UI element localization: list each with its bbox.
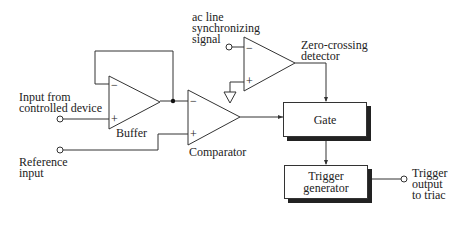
reference-terminal	[57, 147, 63, 153]
input-terminal	[57, 116, 63, 122]
ac-line-terminal	[226, 44, 232, 50]
buffer-minus-sign: −	[111, 80, 118, 91]
zero-crossing-minus-sign: −	[246, 43, 253, 54]
gate-block: Gate	[283, 102, 367, 137]
comparator-plus-sign: +	[190, 129, 197, 140]
trigger-generator-label-line2: generator	[303, 182, 348, 194]
comparator-label: Comparator	[189, 147, 246, 158]
trigger-generator-block: Trigger generator	[284, 165, 368, 199]
ground-symbol	[224, 92, 236, 103]
zero-crossing-plus-sign: +	[246, 76, 253, 87]
buffer-plus-sign: +	[111, 114, 118, 125]
trigger-output-terminal	[401, 176, 407, 182]
gate-label: Gate	[314, 114, 337, 126]
junction-dot	[171, 99, 175, 103]
buffer-label: Buffer	[116, 128, 147, 139]
comparator-minus-sign: −	[190, 96, 197, 107]
